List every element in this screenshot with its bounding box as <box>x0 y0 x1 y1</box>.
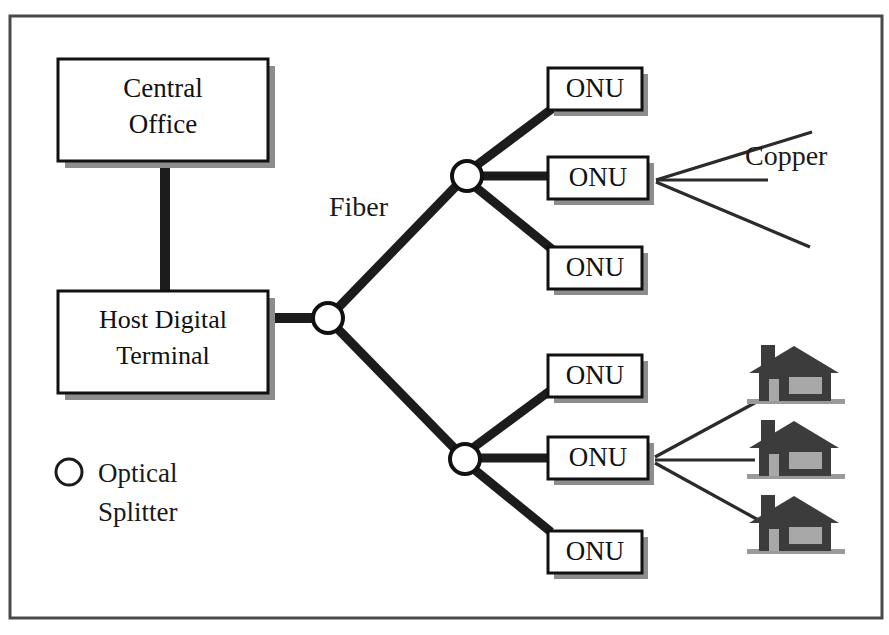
fiber-lower-to-onu-6 <box>470 466 551 532</box>
fiber-upper-to-onu-3 <box>473 185 553 250</box>
fiber-annotation-label: Fiber <box>329 191 389 222</box>
onu-3-label: ONU <box>566 252 625 282</box>
legend-splitter-circle-icon <box>56 459 82 485</box>
legend-label-line1: Optical <box>98 458 177 488</box>
node-host-digital-terminal[interactable]: Host Digital Terminal <box>58 291 275 400</box>
onu-5-label: ONU <box>569 442 628 472</box>
node-onu-5[interactable]: ONU <box>548 437 654 485</box>
onu-4-label: ONU <box>566 360 625 390</box>
lower-splitter-icon[interactable] <box>450 444 480 474</box>
copper-house-link-1 <box>655 399 762 457</box>
central-office-label-line2: Office <box>129 109 197 139</box>
house-icon-3 <box>747 495 845 554</box>
node-onu-3[interactable]: ONU <box>548 247 648 295</box>
node-onu-1[interactable]: ONU <box>548 68 648 116</box>
hdt-label-line2: Terminal <box>116 341 209 370</box>
main-splitter-icon[interactable] <box>313 303 343 333</box>
node-central-office[interactable]: Central Office <box>58 59 275 168</box>
node-onu-6[interactable]: ONU <box>548 531 648 579</box>
figure-canvas: Central Office Host Digital Terminal ONU… <box>0 0 889 635</box>
central-office-label-line1: Central <box>123 73 202 103</box>
copper-drop-bottom <box>656 182 810 247</box>
house-icon-2 <box>747 420 845 479</box>
copper-house-link-3 <box>655 463 762 522</box>
onu-1-label: ONU <box>566 73 625 103</box>
pon-network-diagram: Central Office Host Digital Terminal ONU… <box>0 0 889 635</box>
fiber-main-to-lower-splitter <box>334 325 459 453</box>
house-icon-1 <box>747 345 845 404</box>
upper-splitter-icon[interactable] <box>452 161 482 191</box>
onu-6-label: ONU <box>566 536 625 566</box>
hdt-label-line1: Host Digital <box>99 305 227 334</box>
onu-2-label: ONU <box>569 162 628 192</box>
node-onu-4[interactable]: ONU <box>548 355 648 403</box>
node-onu-2[interactable]: ONU <box>548 157 654 205</box>
fiber-lower-to-onu-4 <box>470 390 551 450</box>
fiber-upper-to-onu-1 <box>473 108 553 168</box>
legend-label-line2: Splitter <box>98 497 178 527</box>
legend-optical-splitter: Optical Splitter <box>56 458 178 527</box>
copper-annotation-label: Copper <box>745 140 828 171</box>
